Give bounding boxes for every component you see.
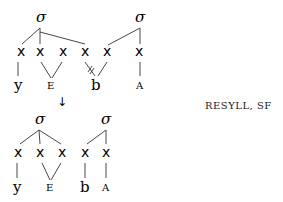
bottom-x-3: x: [58, 144, 66, 160]
bottom-seg-A: A: [101, 182, 110, 193]
bottom-x-2: x: [36, 144, 44, 160]
top-seg-A: A: [135, 80, 144, 91]
top-sigma-1: σ: [36, 8, 47, 26]
bottom-seg-E: E: [46, 182, 53, 193]
derivation-arrow-icon: ↓: [57, 95, 67, 109]
bottom-structure: σ σ x x x x x y E b A: [12, 110, 112, 196]
bottom-seg-b: b: [80, 178, 90, 196]
top-x-1: x: [17, 43, 25, 59]
rule-label: RESYLL, SF: [205, 100, 272, 111]
top-x-6: x: [135, 43, 143, 59]
top-x-4: x: [81, 43, 89, 59]
top-x-5: x: [103, 43, 111, 59]
top-seg-E: E: [47, 80, 54, 91]
bottom-seg-y: y: [12, 178, 22, 196]
top-seg-b: b: [91, 76, 101, 94]
bottom-x-5: x: [102, 144, 110, 160]
top-x-2: x: [36, 43, 44, 59]
top-structure: σ σ x x x x x x y E b A: [13, 8, 146, 94]
bottom-sigma-1: σ: [35, 110, 46, 128]
bottom-x-1: x: [14, 144, 22, 160]
bottom-x-4: x: [81, 144, 89, 160]
bottom-sigma-2: σ: [101, 110, 112, 128]
top-sigma-2: σ: [135, 8, 146, 26]
top-seg-y: y: [13, 76, 23, 94]
top-x-3: x: [59, 43, 67, 59]
